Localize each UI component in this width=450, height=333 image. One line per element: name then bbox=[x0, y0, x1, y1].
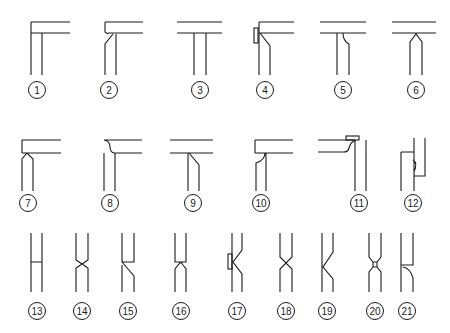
svg-text:11: 11 bbox=[354, 198, 365, 209]
joint-19: 19 bbox=[319, 233, 336, 320]
svg-text:20: 20 bbox=[369, 306, 381, 317]
joint-18: 18 bbox=[278, 233, 295, 320]
svg-text:10: 10 bbox=[255, 198, 267, 209]
joint-10: 10 bbox=[253, 140, 294, 212]
joint-4: 4 bbox=[254, 22, 294, 99]
joint-11: 11 bbox=[318, 136, 368, 212]
svg-text:16: 16 bbox=[175, 306, 187, 317]
joint-15: 15 bbox=[120, 233, 137, 320]
svg-text:19: 19 bbox=[321, 306, 333, 317]
joint-6: 6 bbox=[392, 22, 436, 99]
svg-text:2: 2 bbox=[106, 85, 112, 96]
joint-7: 7 bbox=[20, 140, 62, 212]
svg-text:4: 4 bbox=[262, 85, 268, 96]
svg-text:14: 14 bbox=[76, 306, 88, 317]
svg-text:8: 8 bbox=[107, 198, 113, 209]
joint-9: 9 bbox=[170, 140, 213, 212]
joint-12: 12 bbox=[401, 138, 425, 212]
joint-14: 14 bbox=[74, 233, 91, 320]
svg-text:17: 17 bbox=[231, 306, 243, 317]
svg-text:13: 13 bbox=[31, 306, 43, 317]
joint-21: 21 bbox=[399, 233, 416, 320]
joint-8: 8 bbox=[102, 140, 143, 212]
svg-text:9: 9 bbox=[190, 198, 196, 209]
svg-text:5: 5 bbox=[340, 85, 346, 96]
joint-3: 3 bbox=[177, 22, 222, 99]
svg-text:21: 21 bbox=[401, 306, 413, 317]
joint-1: 1 bbox=[29, 22, 71, 99]
svg-text:1: 1 bbox=[34, 85, 40, 96]
svg-text:7: 7 bbox=[25, 198, 31, 209]
joint-diagram: 1 2 3 4 5 6 7 8 9 bbox=[0, 0, 450, 333]
svg-text:6: 6 bbox=[413, 85, 419, 96]
svg-text:12: 12 bbox=[407, 198, 419, 209]
joint-17: 17 bbox=[228, 233, 246, 320]
joint-13: 13 bbox=[29, 233, 46, 320]
svg-text:15: 15 bbox=[122, 306, 134, 317]
svg-text:18: 18 bbox=[280, 306, 292, 317]
svg-text:3: 3 bbox=[197, 85, 203, 96]
joint-5: 5 bbox=[320, 22, 366, 99]
joint-16: 16 bbox=[173, 233, 190, 320]
joint-2: 2 bbox=[101, 22, 144, 99]
joint-20: 20 bbox=[367, 233, 384, 320]
